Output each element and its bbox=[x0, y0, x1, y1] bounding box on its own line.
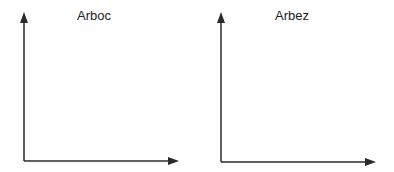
right-x-arrowhead-icon bbox=[365, 158, 376, 166]
axes-canvas bbox=[0, 0, 394, 172]
right-panel-axes bbox=[217, 12, 376, 166]
left-panel-title: Arboc bbox=[77, 9, 111, 23]
left-y-arrowhead-icon bbox=[20, 12, 28, 23]
left-x-arrowhead-icon bbox=[168, 157, 179, 165]
left-panel-axes bbox=[20, 12, 179, 165]
right-y-arrowhead-icon bbox=[217, 12, 225, 23]
right-panel-title: Arbez bbox=[275, 9, 309, 23]
